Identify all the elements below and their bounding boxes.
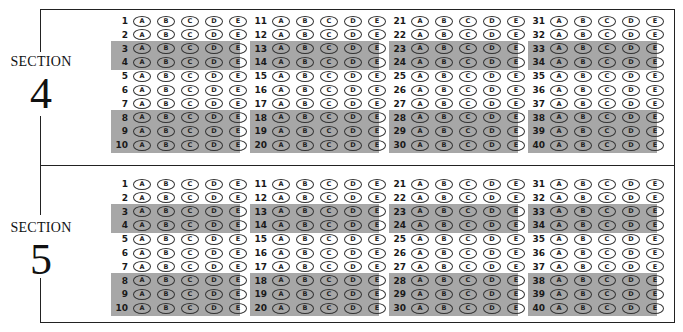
answer-bubble-c[interactable]: C bbox=[459, 126, 477, 137]
answer-bubble-e[interactable]: E bbox=[646, 248, 664, 259]
answer-bubble-b[interactable]: B bbox=[435, 234, 453, 245]
answer-bubble-b[interactable]: B bbox=[157, 289, 175, 300]
answer-bubble-c[interactable]: C bbox=[181, 234, 199, 245]
answer-bubble-d[interactable]: D bbox=[344, 289, 362, 300]
answer-bubble-b[interactable]: B bbox=[574, 16, 592, 27]
answer-bubble-b[interactable]: B bbox=[296, 71, 314, 82]
answer-bubble-b[interactable]: B bbox=[574, 220, 592, 231]
answer-bubble-d[interactable]: D bbox=[205, 29, 223, 40]
answer-bubble-a[interactable]: A bbox=[133, 140, 151, 151]
answer-bubble-d[interactable]: D bbox=[483, 248, 501, 259]
answer-bubble-e[interactable]: E bbox=[229, 71, 247, 82]
answer-bubble-c[interactable]: C bbox=[181, 140, 199, 151]
answer-bubble-e[interactable]: E bbox=[229, 16, 247, 27]
answer-bubble-e[interactable]: E bbox=[368, 206, 386, 217]
answer-bubble-c[interactable]: C bbox=[320, 275, 338, 286]
answer-bubble-b[interactable]: B bbox=[574, 71, 592, 82]
answer-bubble-c[interactable]: C bbox=[181, 275, 199, 286]
answer-bubble-c[interactable]: C bbox=[598, 140, 616, 151]
answer-bubble-d[interactable]: D bbox=[622, 140, 640, 151]
answer-bubble-b[interactable]: B bbox=[435, 98, 453, 109]
answer-bubble-a[interactable]: A bbox=[133, 16, 151, 27]
answer-bubble-c[interactable]: C bbox=[598, 16, 616, 27]
answer-bubble-e[interactable]: E bbox=[229, 303, 247, 314]
answer-bubble-b[interactable]: B bbox=[157, 220, 175, 231]
answer-bubble-b[interactable]: B bbox=[574, 303, 592, 314]
answer-bubble-d[interactable]: D bbox=[622, 248, 640, 259]
answer-bubble-d[interactable]: D bbox=[205, 234, 223, 245]
answer-bubble-b[interactable]: B bbox=[435, 275, 453, 286]
answer-bubble-e[interactable]: E bbox=[229, 85, 247, 96]
answer-bubble-b[interactable]: B bbox=[574, 112, 592, 123]
answer-bubble-d[interactable]: D bbox=[622, 71, 640, 82]
answer-bubble-b[interactable]: B bbox=[574, 192, 592, 203]
answer-bubble-b[interactable]: B bbox=[296, 179, 314, 190]
answer-bubble-a[interactable]: A bbox=[272, 179, 290, 190]
answer-bubble-a[interactable]: A bbox=[411, 289, 429, 300]
answer-bubble-d[interactable]: D bbox=[344, 140, 362, 151]
answer-bubble-a[interactable]: A bbox=[550, 261, 568, 272]
answer-bubble-e[interactable]: E bbox=[229, 43, 247, 54]
answer-bubble-d[interactable]: D bbox=[622, 98, 640, 109]
answer-bubble-d[interactable]: D bbox=[622, 234, 640, 245]
answer-bubble-a[interactable]: A bbox=[133, 248, 151, 259]
answer-bubble-e[interactable]: E bbox=[229, 248, 247, 259]
answer-bubble-d[interactable]: D bbox=[483, 206, 501, 217]
answer-bubble-c[interactable]: C bbox=[598, 85, 616, 96]
answer-bubble-e[interactable]: E bbox=[368, 43, 386, 54]
answer-bubble-b[interactable]: B bbox=[435, 179, 453, 190]
answer-bubble-d[interactable]: D bbox=[205, 98, 223, 109]
answer-bubble-a[interactable]: A bbox=[550, 275, 568, 286]
answer-bubble-e[interactable]: E bbox=[368, 220, 386, 231]
answer-bubble-e[interactable]: E bbox=[507, 29, 525, 40]
answer-bubble-c[interactable]: C bbox=[181, 248, 199, 259]
answer-bubble-d[interactable]: D bbox=[622, 220, 640, 231]
answer-bubble-b[interactable]: B bbox=[157, 57, 175, 68]
answer-bubble-a[interactable]: A bbox=[411, 71, 429, 82]
answer-bubble-c[interactable]: C bbox=[459, 234, 477, 245]
answer-bubble-d[interactable]: D bbox=[344, 206, 362, 217]
answer-bubble-c[interactable]: C bbox=[459, 289, 477, 300]
answer-bubble-d[interactable]: D bbox=[483, 192, 501, 203]
answer-bubble-a[interactable]: A bbox=[272, 126, 290, 137]
answer-bubble-c[interactable]: C bbox=[320, 179, 338, 190]
answer-bubble-e[interactable]: E bbox=[646, 303, 664, 314]
answer-bubble-e[interactable]: E bbox=[368, 179, 386, 190]
answer-bubble-b[interactable]: B bbox=[157, 98, 175, 109]
answer-bubble-b[interactable]: B bbox=[574, 140, 592, 151]
answer-bubble-b[interactable]: B bbox=[296, 98, 314, 109]
answer-bubble-c[interactable]: C bbox=[598, 289, 616, 300]
answer-bubble-e[interactable]: E bbox=[507, 126, 525, 137]
answer-bubble-c[interactable]: C bbox=[459, 71, 477, 82]
answer-bubble-d[interactable]: D bbox=[622, 275, 640, 286]
answer-bubble-e[interactable]: E bbox=[229, 140, 247, 151]
answer-bubble-c[interactable]: C bbox=[320, 57, 338, 68]
answer-bubble-e[interactable]: E bbox=[229, 234, 247, 245]
answer-bubble-e[interactable]: E bbox=[229, 29, 247, 40]
answer-bubble-d[interactable]: D bbox=[205, 179, 223, 190]
answer-bubble-a[interactable]: A bbox=[133, 29, 151, 40]
answer-bubble-c[interactable]: C bbox=[459, 57, 477, 68]
answer-bubble-d[interactable]: D bbox=[622, 192, 640, 203]
answer-bubble-b[interactable]: B bbox=[435, 71, 453, 82]
answer-bubble-d[interactable]: D bbox=[205, 71, 223, 82]
answer-bubble-c[interactable]: C bbox=[181, 261, 199, 272]
answer-bubble-c[interactable]: C bbox=[459, 29, 477, 40]
answer-bubble-a[interactable]: A bbox=[272, 140, 290, 151]
answer-bubble-c[interactable]: C bbox=[320, 192, 338, 203]
answer-bubble-b[interactable]: B bbox=[157, 71, 175, 82]
answer-bubble-a[interactable]: A bbox=[550, 206, 568, 217]
answer-bubble-a[interactable]: A bbox=[133, 85, 151, 96]
answer-bubble-c[interactable]: C bbox=[320, 220, 338, 231]
answer-bubble-e[interactable]: E bbox=[368, 85, 386, 96]
answer-bubble-e[interactable]: E bbox=[368, 98, 386, 109]
answer-bubble-b[interactable]: B bbox=[157, 248, 175, 259]
answer-bubble-c[interactable]: C bbox=[181, 98, 199, 109]
answer-bubble-c[interactable]: C bbox=[598, 303, 616, 314]
answer-bubble-b[interactable]: B bbox=[296, 248, 314, 259]
answer-bubble-a[interactable]: A bbox=[133, 234, 151, 245]
answer-bubble-e[interactable]: E bbox=[229, 275, 247, 286]
answer-bubble-a[interactable]: A bbox=[133, 43, 151, 54]
answer-bubble-e[interactable]: E bbox=[229, 289, 247, 300]
answer-bubble-d[interactable]: D bbox=[483, 303, 501, 314]
